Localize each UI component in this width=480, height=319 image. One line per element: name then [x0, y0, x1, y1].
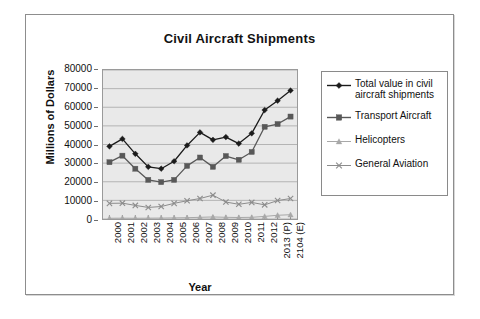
- chart-legend: Total value in civil aircraft shipmentsT…: [321, 71, 448, 196]
- series-square: [107, 114, 293, 185]
- y-axis: 8000070000600005000040000300002000010000…: [24, 69, 98, 220]
- y-axis-tick-label: 30000: [64, 158, 92, 168]
- y-axis-tick-mark: [94, 145, 98, 146]
- x-axis-tick-label: 2004: [165, 222, 175, 243]
- x-axis-tick-label: 2010: [243, 222, 253, 243]
- data-point-square: [288, 114, 293, 119]
- data-point-square: [249, 149, 254, 154]
- x-axis-tick-label: 2000: [113, 222, 123, 243]
- legend-marker-triangle-icon: [326, 135, 352, 148]
- legend-label: Helicopters: [355, 134, 405, 145]
- y-axis-tick-label: 0: [86, 215, 92, 225]
- data-point-diamond: [210, 137, 216, 143]
- series-cross: [107, 192, 293, 210]
- legend-marker-diamond-icon: [326, 79, 352, 92]
- x-axis-tick-label: 2003: [152, 222, 162, 243]
- data-point-square: [223, 153, 228, 158]
- x-axis-tick-label: 2104 (E): [295, 222, 305, 258]
- chart-frame: Civil Aircraft Shipments Millions of Dol…: [25, 14, 454, 295]
- y-axis-tick-label: 20000: [64, 177, 92, 187]
- data-point-square: [133, 166, 138, 171]
- y-axis-tick-mark: [94, 163, 98, 164]
- y-axis-tick-label: 10000: [64, 196, 92, 206]
- chart-title: Civil Aircraft Shipments: [26, 31, 453, 46]
- y-axis-tick-mark: [94, 88, 98, 89]
- y-axis-tick-mark: [94, 69, 98, 70]
- data-point-triangle: [171, 215, 176, 219]
- data-point-square: [197, 155, 202, 160]
- data-point-diamond: [223, 134, 229, 140]
- series-triangle: [107, 212, 293, 219]
- legend-item[interactable]: Helicopters: [326, 134, 443, 148]
- x-axis-tick-label: 2005: [178, 222, 188, 243]
- x-axis-tick-label: 2002: [139, 222, 149, 243]
- data-point-triangle: [159, 215, 164, 219]
- data-point-square: [184, 163, 189, 168]
- legend-item[interactable]: Transport Aircraft: [326, 110, 443, 124]
- x-axis-tick-label: 2001: [126, 222, 136, 243]
- x-axis-tick-label: 2008: [217, 222, 227, 243]
- legend-item[interactable]: Total value in civil aircraft shipments: [326, 78, 443, 100]
- data-point-square: [159, 180, 164, 185]
- y-axis-tick-label: 60000: [64, 102, 92, 112]
- legend-marker-cross-icon: [326, 159, 352, 172]
- x-axis-title: Year: [102, 281, 298, 293]
- plot-area: [102, 69, 298, 220]
- data-point-square: [336, 115, 341, 120]
- data-point-square: [236, 157, 241, 162]
- data-point-triangle: [184, 215, 189, 219]
- data-point-square: [146, 177, 151, 182]
- data-point-square: [120, 153, 125, 158]
- y-axis-tick-label: 40000: [64, 140, 92, 150]
- plot-area-wrapper: [102, 69, 298, 220]
- x-axis-tick-label: 2011: [256, 222, 266, 242]
- data-point-diamond: [158, 166, 164, 172]
- y-axis-tick-label: 80000: [64, 64, 92, 74]
- data-point-diamond: [336, 82, 342, 88]
- chart-page: Civil Aircraft Shipments Millions of Dol…: [0, 0, 480, 319]
- y-axis-tick-label: 70000: [64, 83, 92, 93]
- x-axis-tick-label: 2013 (P): [282, 222, 292, 258]
- legend-label: Transport Aircraft: [355, 110, 431, 121]
- data-point-square: [172, 177, 177, 182]
- y-axis-tick-mark: [94, 107, 98, 108]
- y-axis-tick-mark: [94, 182, 98, 183]
- x-axis-tick-label: 2009: [230, 222, 240, 243]
- legend-item[interactable]: General Aviation: [326, 158, 443, 172]
- y-axis-tick-label: 50000: [64, 121, 92, 131]
- data-point-square: [275, 121, 280, 126]
- x-axis-tick-label: 2007: [204, 222, 214, 243]
- x-axis-tick-label: 2012: [269, 222, 279, 243]
- data-point-square: [210, 164, 215, 169]
- legend-label: General Aviation: [355, 158, 428, 169]
- data-point-square: [262, 124, 267, 129]
- x-axis: 2000200120022003200420052006200720082009…: [102, 222, 298, 280]
- data-point-triangle: [236, 215, 241, 219]
- legend-marker-square-icon: [326, 111, 352, 124]
- data-point-square: [107, 160, 112, 165]
- series-canvas: [103, 70, 297, 219]
- y-axis-tick-mark: [94, 220, 98, 221]
- x-axis-tick-label: 2006: [191, 222, 201, 243]
- legend-label: Total value in civil aircraft shipments: [355, 78, 434, 100]
- y-axis-tick-mark: [94, 126, 98, 127]
- y-axis-tick-mark: [94, 201, 98, 202]
